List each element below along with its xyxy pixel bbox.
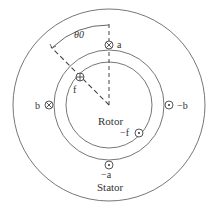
machine-diagram: θ0 a −a b −b f −f Rotor Stator — [0, 0, 215, 206]
conductor-b-cross-icon — [45, 101, 53, 109]
conductor-neg-a-dot-icon — [105, 161, 113, 169]
label-b: b — [35, 100, 40, 111]
conductor-neg-b-dot-icon — [165, 101, 173, 109]
label-a: a — [117, 39, 122, 50]
angle-label: θ0 — [74, 29, 84, 40]
conductor-a-cross-icon — [105, 41, 113, 49]
stator-label: Stator — [97, 181, 124, 193]
label-f: f — [73, 84, 77, 95]
conductor-f-plus-icon — [76, 73, 84, 81]
rotor-label: Rotor — [98, 115, 123, 127]
conductor-neg-f-dot-icon — [135, 129, 143, 137]
label-neg-a: −a — [101, 169, 112, 180]
label-neg-f: −f — [120, 127, 130, 138]
label-neg-b: −b — [177, 100, 188, 111]
